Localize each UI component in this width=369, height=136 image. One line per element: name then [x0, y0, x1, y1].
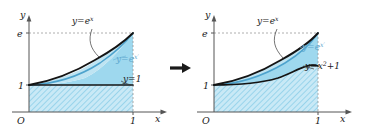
- y-tick-label-one: 1: [18, 80, 24, 91]
- exp-curve-label: y=ex: [71, 15, 94, 26]
- y-tick-label-one: 1: [203, 80, 209, 91]
- exp-curve-label: y=ex: [256, 15, 279, 26]
- transformation-arrow: [170, 63, 191, 73]
- y-axis-label: y: [19, 9, 26, 20]
- x-axis-arrowhead: [161, 110, 168, 115]
- y-axis-arrowhead: [212, 15, 217, 22]
- right-plot: y x O e 1 1 y=ex y=ex′ y=x2+1: [197, 9, 352, 126]
- x-axis-arrowhead: [346, 110, 353, 115]
- blue-curve-label: y=ex′: [301, 41, 325, 52]
- y-tick-label-e: e: [202, 28, 208, 39]
- x-tick-label-one: 1: [130, 115, 136, 126]
- left-plot: y x O e 1 1 y=ex y=ex′ y=1: [12, 9, 167, 126]
- y-axis-label: y: [204, 9, 211, 20]
- origin-label: O: [202, 115, 210, 126]
- x-axis-label: x: [155, 113, 161, 124]
- y-axis-arrowhead: [27, 15, 32, 22]
- parabola-curve-label: y=x2+1: [304, 60, 340, 71]
- constant-line-label: y=1: [122, 74, 141, 84]
- x-tick-label-one: 1: [315, 115, 321, 126]
- blue-curve-label: y=ex′: [115, 53, 139, 64]
- dual-integral-region-figure: y x O e 1 1 y=ex y=ex′ y=1: [0, 0, 369, 136]
- hatched-region-below-one: [29, 85, 133, 112]
- x-axis-label: x: [340, 113, 346, 124]
- y-tick-label-e: e: [17, 28, 23, 39]
- origin-label: O: [17, 115, 25, 126]
